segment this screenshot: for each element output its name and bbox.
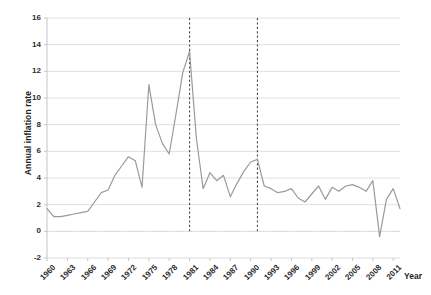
y-tick-label: 8 xyxy=(19,120,41,129)
y-tick-label: 10 xyxy=(19,93,41,102)
y-axis-title: Annual inflation rate xyxy=(23,53,33,213)
y-tick-label: 6 xyxy=(19,146,41,155)
y-tick-label: 14 xyxy=(19,40,41,49)
y-tick-label: 16 xyxy=(19,13,41,22)
y-tick-label: 0 xyxy=(19,226,41,235)
y-tick-label: 2 xyxy=(19,200,41,209)
inflation-series-line xyxy=(47,51,400,236)
y-tick-label: 4 xyxy=(19,173,41,182)
x-axis-title: Year xyxy=(404,271,422,281)
inflation-line-chart xyxy=(0,0,431,295)
y-tick-label: -2 xyxy=(19,253,41,262)
chart-container: Annual inflation rate -20246810121416 19… xyxy=(0,0,431,295)
y-tick-label: 12 xyxy=(19,66,41,75)
